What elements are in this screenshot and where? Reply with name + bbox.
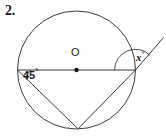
chord-right [78, 70, 136, 129]
geometry-figure: 2. O 45° x° [0, 0, 166, 140]
angle-x-label: x° [136, 51, 144, 63]
circle-center-label: O [71, 47, 80, 58]
angle-45-label: 45° [23, 68, 38, 81]
angle-45-value: 45 [23, 69, 35, 81]
degree-symbol-right: ° [142, 50, 145, 58]
degree-symbol-left: ° [35, 68, 38, 75]
problem-number-label: 2. [5, 4, 15, 18]
center-point-dot [74, 68, 78, 72]
